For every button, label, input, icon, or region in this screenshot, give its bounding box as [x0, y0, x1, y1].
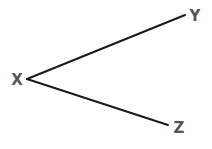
tree-diagram: X Y Z: [0, 0, 212, 149]
edge-x-y: [27, 15, 185, 79]
node-label-x: X: [11, 71, 23, 89]
node-label-z: Z: [174, 119, 185, 137]
edge-x-z: [27, 79, 168, 125]
node-label-y: Y: [189, 7, 202, 25]
